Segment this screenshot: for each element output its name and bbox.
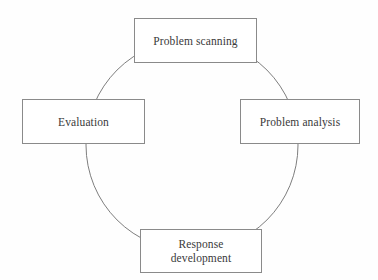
- node-problem-scanning[interactable]: Problem scanning: [134, 18, 257, 63]
- node-problem-scanning-label: Problem scanning: [149, 34, 241, 48]
- node-response-development[interactable]: Response development: [140, 229, 262, 273]
- diagram-canvas: Problem scanning Problem analysis Respon…: [0, 0, 378, 280]
- node-evaluation[interactable]: Evaluation: [22, 99, 145, 144]
- node-problem-analysis[interactable]: Problem analysis: [240, 99, 360, 144]
- node-response-development-label: Response development: [167, 237, 236, 265]
- cycle-circle: [86, 39, 298, 251]
- node-problem-analysis-label: Problem analysis: [256, 115, 345, 129]
- node-evaluation-label: Evaluation: [54, 115, 113, 129]
